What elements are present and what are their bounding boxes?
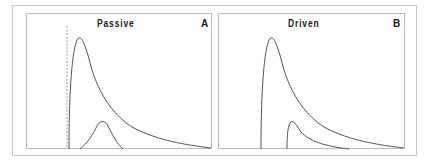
passive-plot: [27, 14, 213, 150]
panel-driven: Driven B: [218, 13, 405, 149]
secondary-bump-curve: [80, 122, 123, 150]
driven-plot: [219, 14, 406, 150]
panel-passive: Passive A: [26, 13, 212, 149]
main-response-curve: [261, 38, 404, 149]
main-response-curve: [69, 38, 211, 149]
secondary-response-curve: [287, 122, 349, 149]
